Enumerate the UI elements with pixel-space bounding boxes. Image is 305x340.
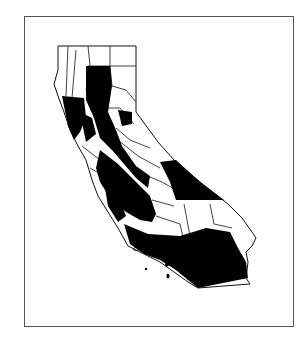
california-county-map <box>0 0 305 340</box>
